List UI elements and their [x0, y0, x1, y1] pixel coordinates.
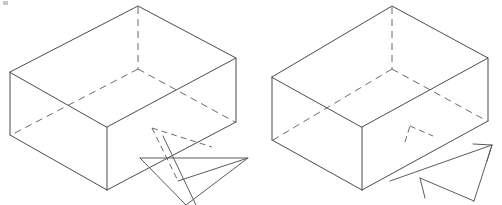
right-box-top-rim — [272, 6, 488, 127]
right-box-hidden-inner-left — [273, 69, 392, 140]
left-box-hidden-inner-right — [138, 69, 235, 122]
right-figure-arrow — [390, 126, 492, 201]
right-arrow-dashed-marker-right — [410, 126, 433, 136]
right-box-hidden-inner-right — [392, 69, 487, 121]
left-figure-panel — [10, 6, 248, 205]
geometry-figure-canvas: Two isometric open-box wireframe diagram… — [0, 0, 502, 205]
left-box-hidden-inner-left — [11, 69, 138, 135]
left-box-hidden-edges — [11, 7, 235, 135]
left-figure-arrow — [140, 128, 248, 205]
left-arrow-blade — [140, 158, 248, 205]
left-box-bottom-right-edge — [107, 122, 236, 190]
left-arrow-shaft — [178, 158, 248, 181]
right-arrow-tail-notch — [420, 178, 425, 198]
right-arrow-tail-edge — [420, 178, 474, 201]
right-arrow-dashed-marker-left — [405, 126, 410, 142]
left-arrow-hidden-upper-edge — [152, 128, 212, 147]
right-box-bottom-left-edge — [272, 140, 362, 190]
right-box-hidden-edges — [273, 7, 487, 140]
corner-speck-artifact — [3, 1, 8, 5]
left-box-top-rim — [10, 6, 236, 127]
right-box-visible-edges — [272, 6, 488, 190]
right-figure-panel — [272, 6, 492, 201]
right-arrow-blade-upper-edge — [390, 145, 492, 181]
left-box-bottom-left-edge — [10, 135, 107, 190]
left-arrow-tail-line — [163, 136, 196, 205]
right-arrow-blade-lower-edge — [474, 145, 492, 201]
left-box-visible-edges — [10, 6, 236, 190]
left-arrow-lower-edge — [140, 158, 186, 205]
